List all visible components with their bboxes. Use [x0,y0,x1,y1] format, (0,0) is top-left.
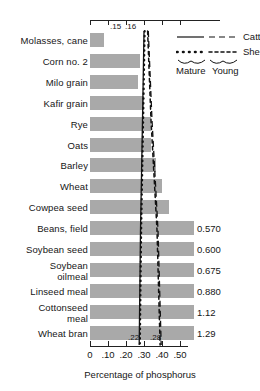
bar-soybean-oilmeal [90,263,194,277]
bar-soybean-seed [90,242,194,256]
x-tick-label-0: 0 [83,350,97,360]
value-label-soybean-seed: 0.600 [197,245,221,255]
x-tick-label-10: .10 [99,350,117,360]
legend-label-sheep: Sheep [243,47,260,57]
x-tick-label-20: .20 [117,350,135,360]
bottom-axis-line [90,346,188,347]
category-label-linseed-meal: Linseed meal [30,287,88,298]
annotation-22: .22 [128,333,139,342]
x-tick-30 [144,341,145,346]
value-label-soybean-oilmeal: 0.675 [197,266,221,276]
legend-swatch-cattle [176,32,240,42]
x-tick-20 [126,341,127,346]
legend-swatch-sheep [176,47,240,57]
annotation-16: .16 [125,22,136,31]
bar-beans-field [90,221,194,235]
bar-cottonseed-meal [90,305,194,319]
bar-oats [90,138,151,152]
x-tick-label-40: .40 [153,350,171,360]
bar-wheat [90,179,162,193]
bar-wheat-bran [90,326,194,340]
category-label-oats: Oats [68,141,88,152]
legend-entry-sheep: Sheep [176,47,260,57]
category-label-molasses-cane: Molasses, cane [21,36,88,47]
category-label-wheat-bran: Wheat bran [38,329,88,340]
top-axis-tick-10 [108,20,109,25]
value-label-linseed-meal: 0.880 [197,287,221,297]
chart-legend: Cattle Sheep Mature Young [176,28,260,74]
x-tick-0 [90,341,91,346]
top-axis-tick-0 [90,20,91,25]
top-axis-line [90,20,220,21]
bar-linseed-meal [90,284,194,298]
category-label-beans-field: Beans, field [37,224,88,235]
category-label-soybean-seed: Soybean seed [26,245,88,256]
bar-kafir-grain [90,96,144,110]
bar-milo-grain [90,75,138,89]
top-axis-tick-50 [180,20,181,25]
phosphorus-bar-chart: Molasses, cane Corn no. 2 Milo grain Kaf… [0,0,260,391]
x-tick-50 [180,341,181,346]
bar-cowpea-seed [90,200,169,214]
legend-column-header-young: Young [212,66,239,76]
category-label-barley: Barley [60,161,88,172]
bar-barley [90,158,156,172]
legend-label-cattle: Cattle [243,32,260,42]
x-tick-40 [162,341,163,346]
category-label-cottonseed-meal: Cottonseed meal [38,303,88,324]
value-label-beans-field: 0.570 [197,224,221,234]
x-tick-label-30: .30 [135,350,153,360]
value-label-wheat-bran: 1.29 [197,329,216,339]
category-label-corn-no-2: Corn no. 2 [43,57,88,68]
x-tick-label-50: .50 [171,350,189,360]
bar-molasses-cane [90,33,104,47]
bar-rye [90,117,151,131]
annotation-15: .15 [110,22,121,31]
bar-corn-no-2 [90,54,140,68]
category-label-cowpea-seed: Cowpea seed [29,203,88,214]
annotation-28: .28 [150,333,161,342]
legend-column-header-mature: Mature [176,66,206,76]
top-axis-tick-30 [144,20,145,25]
x-axis-title: Percentage of phosphorus [65,369,215,380]
legend-entry-cattle: Cattle [176,32,260,42]
category-label-milo-grain: Milo grain [46,78,88,89]
category-label-rye: Rye [71,120,88,131]
x-tick-10 [108,341,109,346]
top-axis-tick-40 [162,20,163,25]
category-label-kafir-grain: Kafir grain [44,99,88,110]
category-label-soybean-oilmeal: Soybean oilmeal [50,261,88,282]
value-label-cottonseed-meal: 1.12 [197,308,216,318]
category-label-wheat: Wheat [60,182,88,193]
